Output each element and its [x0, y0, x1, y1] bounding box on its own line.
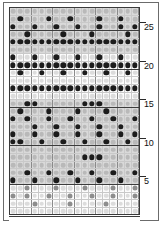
pattern-cell[interactable] — [118, 162, 125, 169]
pattern-cell[interactable] — [82, 193, 89, 200]
pattern-cell[interactable] — [10, 123, 17, 130]
pattern-cell[interactable] — [67, 8, 74, 15]
pattern-cell[interactable] — [118, 46, 125, 53]
pattern-cell[interactable] — [39, 31, 46, 38]
pattern-cell[interactable] — [32, 139, 39, 146]
pattern-cell[interactable] — [118, 177, 125, 184]
pattern-cell[interactable] — [110, 185, 117, 192]
pattern-cell[interactable] — [82, 154, 89, 161]
pattern-cell[interactable] — [96, 116, 103, 123]
pattern-cell[interactable] — [67, 93, 74, 100]
pattern-cell[interactable] — [103, 162, 110, 169]
pattern-cell[interactable] — [82, 70, 89, 77]
pattern-cell[interactable] — [125, 54, 132, 61]
pattern-cell[interactable] — [32, 70, 39, 77]
pattern-cell[interactable] — [125, 85, 132, 92]
pattern-cell[interactable] — [110, 169, 117, 176]
pattern-cell[interactable] — [96, 100, 103, 107]
pattern-cell[interactable] — [132, 39, 139, 46]
pattern-cell[interactable] — [32, 39, 39, 46]
pattern-cell[interactable] — [75, 62, 82, 69]
pattern-cell[interactable] — [82, 39, 89, 46]
pattern-cell[interactable] — [118, 131, 125, 138]
pattern-cell[interactable] — [110, 200, 117, 207]
pattern-cell[interactable] — [103, 146, 110, 153]
pattern-cell[interactable] — [32, 208, 39, 215]
pattern-cell[interactable] — [118, 154, 125, 161]
pattern-cell[interactable] — [46, 146, 53, 153]
pattern-cell[interactable] — [10, 85, 17, 92]
pattern-cell[interactable] — [17, 116, 24, 123]
pattern-cell[interactable] — [53, 54, 60, 61]
pattern-cell[interactable] — [96, 70, 103, 77]
pattern-cell[interactable] — [10, 62, 17, 69]
pattern-cell[interactable] — [17, 62, 24, 69]
pattern-cell[interactable] — [60, 23, 67, 30]
pattern-cell[interactable] — [60, 169, 67, 176]
pattern-cell[interactable] — [110, 154, 117, 161]
pattern-cell[interactable] — [24, 123, 31, 130]
pattern-cell[interactable] — [89, 177, 96, 184]
pattern-cell[interactable] — [103, 85, 110, 92]
pattern-cell[interactable] — [67, 185, 74, 192]
pattern-cell[interactable] — [125, 123, 132, 130]
pattern-cell[interactable] — [75, 193, 82, 200]
pattern-cell[interactable] — [67, 23, 74, 30]
pattern-cell[interactable] — [67, 154, 74, 161]
pattern-cell[interactable] — [110, 16, 117, 23]
pattern-cell[interactable] — [103, 154, 110, 161]
pattern-cell[interactable] — [53, 116, 60, 123]
pattern-cell[interactable] — [39, 54, 46, 61]
pattern-cell[interactable] — [32, 8, 39, 15]
pattern-cell[interactable] — [17, 39, 24, 46]
pattern-cell[interactable] — [17, 177, 24, 184]
pattern-cell[interactable] — [89, 169, 96, 176]
pattern-cell[interactable] — [10, 100, 17, 107]
pattern-cell[interactable] — [10, 131, 17, 138]
pattern-cell[interactable] — [103, 116, 110, 123]
pattern-cell[interactable] — [67, 146, 74, 153]
pattern-cell[interactable] — [32, 185, 39, 192]
pattern-cell[interactable] — [17, 93, 24, 100]
pattern-cell[interactable] — [96, 177, 103, 184]
pattern-cell[interactable] — [89, 185, 96, 192]
pattern-cell[interactable] — [39, 139, 46, 146]
pattern-cell[interactable] — [89, 200, 96, 207]
pattern-cell[interactable] — [17, 200, 24, 207]
pattern-cell[interactable] — [46, 93, 53, 100]
pattern-cell[interactable] — [39, 16, 46, 23]
pattern-cell[interactable] — [32, 200, 39, 207]
pattern-cell[interactable] — [118, 62, 125, 69]
pattern-cell[interactable] — [17, 131, 24, 138]
pattern-cell[interactable] — [125, 162, 132, 169]
pattern-cell[interactable] — [118, 100, 125, 107]
pattern-cell[interactable] — [24, 77, 31, 84]
pattern-cell[interactable] — [125, 93, 132, 100]
pattern-cell[interactable] — [118, 93, 125, 100]
pattern-cell[interactable] — [24, 116, 31, 123]
pattern-cell[interactable] — [39, 46, 46, 53]
pattern-cell[interactable] — [39, 208, 46, 215]
pattern-cell[interactable] — [32, 100, 39, 107]
pattern-cell[interactable] — [118, 146, 125, 153]
pattern-cell[interactable] — [67, 16, 74, 23]
pattern-cell[interactable] — [89, 208, 96, 215]
pattern-cell[interactable] — [75, 31, 82, 38]
pattern-cell[interactable] — [110, 139, 117, 146]
pattern-cell[interactable] — [132, 193, 139, 200]
pattern-cell[interactable] — [103, 169, 110, 176]
pattern-cell[interactable] — [53, 108, 60, 115]
pattern-cell[interactable] — [82, 23, 89, 30]
pattern-cell[interactable] — [75, 8, 82, 15]
pattern-cell[interactable] — [118, 200, 125, 207]
pattern-cell[interactable] — [75, 54, 82, 61]
pattern-cell[interactable] — [75, 200, 82, 207]
pattern-cell[interactable] — [60, 54, 67, 61]
pattern-cell[interactable] — [17, 85, 24, 92]
pattern-cell[interactable] — [103, 70, 110, 77]
pattern-cell[interactable] — [67, 85, 74, 92]
pattern-cell[interactable] — [60, 85, 67, 92]
pattern-cell[interactable] — [46, 77, 53, 84]
pattern-cell[interactable] — [60, 177, 67, 184]
pattern-cell[interactable] — [103, 46, 110, 53]
